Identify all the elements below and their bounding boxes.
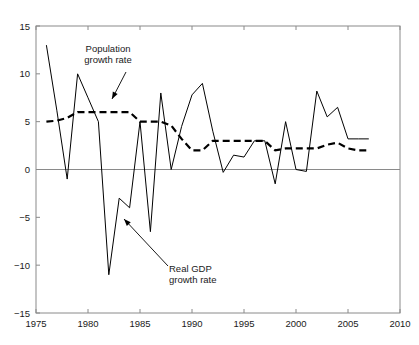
y-tick-label: 0 xyxy=(25,164,30,175)
population-annotation-label-line2: growth rate xyxy=(84,54,132,65)
y-tick-label: −10 xyxy=(14,260,30,271)
x-tick-label: 1985 xyxy=(129,318,150,329)
x-tick-label: 1980 xyxy=(77,318,98,329)
y-tick-label: 5 xyxy=(25,116,30,127)
line-chart: −15−10−5051015 1975198019851990199520002… xyxy=(0,0,419,345)
y-tick-label: −5 xyxy=(19,212,30,223)
x-tick-label: 2005 xyxy=(337,318,358,329)
gdp-annotation: Real GDP growth rate xyxy=(124,219,217,285)
x-tick-label: 1995 xyxy=(233,318,254,329)
population-annotation: Population growth rate xyxy=(84,43,132,99)
x-axis-tick-labels: 19751980198519901995200020052010 xyxy=(25,318,410,329)
x-tick-label: 2000 xyxy=(285,318,306,329)
x-tick-label: 1990 xyxy=(181,318,202,329)
y-tick-label: 15 xyxy=(19,21,30,32)
gdp-annotation-label-line2: growth rate xyxy=(169,274,217,285)
figure-container: −15−10−5051015 1975198019851990199520002… xyxy=(0,0,419,345)
gdp-annotation-label-line1: Real GDP xyxy=(169,263,212,274)
series-population-growth-rate xyxy=(46,112,368,150)
y-tick-label: 10 xyxy=(19,68,30,79)
series-real-gdp-growth-rate xyxy=(46,45,368,275)
y-tick-label: −15 xyxy=(14,308,30,319)
population-annotation-label-line1: Population xyxy=(86,43,131,54)
y-axis-tick-labels: −15−10−5051015 xyxy=(14,21,30,319)
gdp-annotation-arrow xyxy=(124,219,168,266)
x-tick-label: 2010 xyxy=(389,318,410,329)
x-tick-label: 1975 xyxy=(25,318,46,329)
population-annotation-arrowhead xyxy=(112,92,118,99)
y-axis-ticks xyxy=(36,26,40,313)
